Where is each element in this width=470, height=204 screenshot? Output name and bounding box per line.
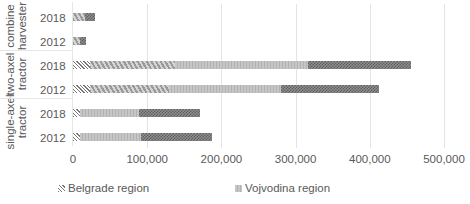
x-axis-tick-label: 400,000 (349, 153, 391, 165)
year-label: 2012 (40, 131, 66, 145)
legend-swatch-icon (58, 185, 65, 192)
group-label: single-axel tractor (4, 95, 28, 150)
bar-two-axel-tractor-2018 (73, 61, 411, 69)
bar-segment (80, 109, 139, 117)
bar-segment (73, 109, 80, 117)
bar-segment (73, 61, 90, 69)
bar-segment (73, 37, 80, 45)
gridline (296, 4, 297, 148)
bar-single-axel-tractor-2018 (73, 109, 200, 117)
legend-swatch-icon (235, 185, 242, 192)
bar-combine-harvester-2018 (73, 13, 95, 21)
group-divider (0, 98, 73, 99)
bar-segment (80, 37, 86, 45)
legend-item-belgrade: Belgrade region (58, 182, 149, 194)
bar-two-axel-tractor-2012 (73, 85, 379, 93)
group-divider (0, 50, 73, 51)
bar-segment (139, 109, 200, 117)
bar-segment (281, 85, 379, 93)
x-axis-tick-label: 200,000 (201, 153, 243, 165)
bar-segment (73, 13, 85, 21)
legend-label: Belgrade region (68, 182, 149, 194)
bar-segment (175, 61, 308, 69)
year-label: 2012 (40, 35, 66, 49)
bar-segment (73, 133, 80, 141)
plot-area (73, 4, 470, 148)
gridline (370, 4, 371, 148)
bar-combine-harvester-2012 (73, 37, 86, 45)
bar-segment (80, 133, 141, 141)
legend-label: Vojvodina region (245, 182, 330, 194)
bar-segment (90, 85, 169, 93)
bar-single-axel-tractor-2012 (73, 133, 212, 141)
x-axis-tick-label: 100,000 (126, 153, 168, 165)
group-label: two-axel tractor (4, 53, 28, 96)
bar-segment (308, 61, 411, 69)
year-label: 2018 (40, 59, 66, 73)
gridline (221, 4, 222, 148)
x-axis-tick-label: 0 (70, 153, 76, 165)
year-label: 2018 (40, 107, 66, 121)
bar-segment (85, 13, 95, 21)
year-label: 2018 (40, 11, 66, 25)
legend: Belgrade region Vojvodina region (0, 182, 470, 198)
gridline (444, 4, 445, 148)
x-axis-tick-label: 300,000 (275, 153, 317, 165)
bar-segment (141, 133, 212, 141)
stacked-bar-chart: combine harvester two-axel tractor singl… (0, 0, 470, 204)
bar-segment (169, 85, 280, 93)
x-axis-tick-label: 500,000 (423, 153, 465, 165)
year-label: 2012 (40, 83, 66, 97)
bar-segment (90, 61, 175, 69)
gridline (147, 4, 148, 148)
bar-segment (73, 85, 90, 93)
legend-item-vojvodina: Vojvodina region (235, 182, 330, 194)
group-label: combine harvester (4, 2, 28, 50)
